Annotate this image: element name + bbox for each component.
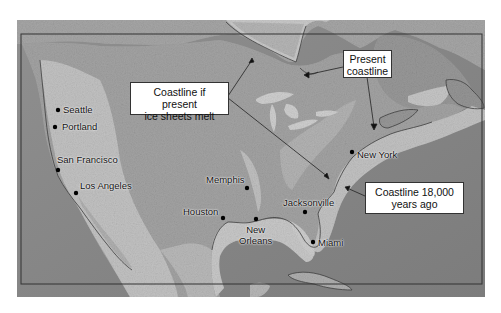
city-label-new-york: New York	[357, 149, 397, 160]
callout-line: Present	[346, 53, 389, 65]
callout-line: Coastline 18,000	[370, 186, 459, 198]
seattle-dot	[56, 108, 60, 112]
city-label-san-francisco: San Francisco	[57, 154, 118, 165]
miami-dot	[311, 240, 315, 244]
memphis-dot	[245, 186, 249, 190]
city-label-miami: Miami	[318, 237, 343, 248]
portland-dot	[53, 125, 57, 129]
jacksonville-dot	[303, 210, 307, 214]
city-label-memphis: Memphis	[206, 174, 245, 185]
callout-line: ice sheets melt	[135, 110, 224, 122]
city-label-portland: Portland	[62, 121, 97, 132]
callout-ice-sheets-melt: Coastline if present ice sheets melt	[130, 82, 229, 115]
callout-line: years ago	[370, 198, 459, 210]
city-label-line: Orleans	[239, 235, 272, 246]
city-label-houston: Houston	[183, 206, 218, 217]
city-label-new-orleans: New Orleans	[239, 224, 272, 246]
new-orleans-dot	[254, 217, 258, 221]
los-angeles-dot	[74, 191, 78, 195]
callout-coastline-18000: Coastline 18,000 years ago	[365, 182, 464, 214]
callout-line: Coastline if present	[135, 86, 224, 110]
callout-line: coastline	[346, 65, 389, 77]
new-york-dot	[350, 150, 354, 154]
callout-present-coastline: Present coastline	[343, 50, 392, 78]
city-label-line: New	[239, 224, 272, 235]
city-label-jacksonville: Jacksonville	[283, 197, 334, 208]
houston-dot	[221, 216, 225, 220]
city-label-seattle: Seattle	[63, 104, 93, 115]
city-label-los-angeles: Los Angeles	[80, 180, 132, 191]
san-francisco-dot	[56, 168, 60, 172]
